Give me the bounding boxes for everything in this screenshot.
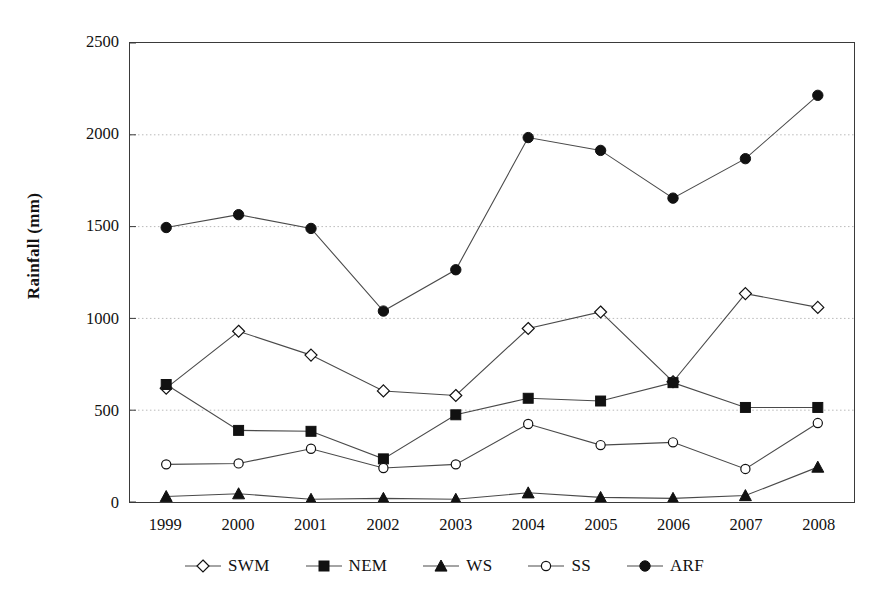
data-point-marker <box>668 378 678 388</box>
data-point-marker <box>813 418 822 427</box>
x-tick-label: 1999 <box>125 515 205 535</box>
series-line <box>166 423 818 469</box>
y-tick-label: 500 <box>45 401 119 421</box>
plot-area <box>129 42 855 503</box>
data-point-marker <box>812 461 824 472</box>
legend-marker <box>197 560 209 572</box>
data-point-marker <box>668 438 677 447</box>
data-point-marker <box>234 425 244 435</box>
data-point-marker <box>306 426 316 436</box>
series-line <box>166 383 818 459</box>
series-line <box>166 95 818 311</box>
legend-item-swm[interactable]: SWM <box>183 556 270 576</box>
series-line <box>166 294 818 396</box>
legend-marker <box>542 561 551 570</box>
chart-legend: SWMNEMWSSSARF <box>0 556 887 576</box>
data-point-marker <box>450 493 462 502</box>
data-point-marker <box>378 454 388 464</box>
data-point-marker <box>813 90 823 100</box>
data-point-marker <box>523 132 533 142</box>
data-point-marker <box>595 145 605 155</box>
data-point-marker <box>306 223 316 233</box>
filled-square-icon <box>304 559 344 573</box>
data-point-marker <box>305 493 317 502</box>
open-diamond-icon <box>183 559 223 573</box>
data-point-marker <box>667 492 679 502</box>
series-ws <box>160 461 824 502</box>
data-point-marker <box>741 464 750 473</box>
data-point-marker <box>522 487 534 498</box>
data-point-marker <box>668 193 678 203</box>
y-tick-label: 2500 <box>45 32 119 52</box>
data-point-marker <box>379 463 388 472</box>
y-tick-label: 1000 <box>45 309 119 329</box>
data-point-marker <box>233 325 245 337</box>
x-tick-label: 2006 <box>634 515 714 535</box>
data-point-marker <box>740 153 750 163</box>
x-tick-label: 2003 <box>416 515 496 535</box>
data-point-marker <box>233 488 245 499</box>
filled-circle-icon <box>625 559 665 573</box>
series-swm <box>160 288 824 402</box>
data-point-marker <box>378 306 388 316</box>
rainfall-line-chart: Rainfall (mm) 05001000150020002500 19992… <box>0 0 887 612</box>
data-point-marker <box>305 349 317 361</box>
x-tick-label: 2007 <box>706 515 786 535</box>
data-point-marker <box>739 490 751 501</box>
data-point-marker <box>451 265 461 275</box>
open-circle-icon <box>526 559 566 573</box>
data-point-marker <box>161 380 171 390</box>
data-point-marker <box>233 209 243 219</box>
data-point-marker <box>596 396 606 406</box>
series-arf <box>161 90 823 316</box>
data-point-marker <box>377 492 389 502</box>
data-point-marker <box>523 393 533 403</box>
data-point-marker <box>451 460 460 469</box>
legend-item-arf[interactable]: ARF <box>625 556 704 576</box>
legend-label: NEM <box>349 556 388 576</box>
data-point-marker <box>234 459 243 468</box>
legend-item-ws[interactable]: WS <box>421 556 492 576</box>
data-point-marker <box>306 444 315 453</box>
x-tick-label: 2005 <box>561 515 641 535</box>
x-tick-label: 2000 <box>198 515 278 535</box>
legend-label: ARF <box>670 556 704 576</box>
legend-label: SS <box>571 556 591 576</box>
data-point-marker <box>596 441 605 450</box>
y-tick-label: 0 <box>45 493 119 513</box>
legend-label: SWM <box>228 556 270 576</box>
data-point-marker <box>162 460 171 469</box>
x-axis-tick-labels: 1999200020012002200320042005200620072008 <box>129 515 855 541</box>
data-point-marker <box>813 402 823 412</box>
data-point-marker <box>161 222 171 232</box>
data-point-marker <box>377 385 389 397</box>
legend-label: WS <box>466 556 492 576</box>
legend-marker <box>640 561 650 571</box>
series-nem <box>161 378 823 464</box>
data-point-marker <box>739 288 751 300</box>
x-tick-label: 2008 <box>779 515 859 535</box>
series-line <box>166 467 818 499</box>
legend-item-ss[interactable]: SS <box>526 556 591 576</box>
data-point-marker <box>740 402 750 412</box>
legend-item-nem[interactable]: NEM <box>304 556 388 576</box>
data-point-marker <box>812 301 824 313</box>
data-series-layer <box>130 43 854 502</box>
x-tick-label: 2004 <box>488 515 568 535</box>
filled-triangle-icon <box>421 559 461 573</box>
legend-marker <box>319 561 329 571</box>
x-tick-label: 2002 <box>343 515 423 535</box>
y-tick-label: 2000 <box>45 124 119 144</box>
data-point-marker <box>524 419 533 428</box>
series-ss <box>162 418 823 473</box>
y-tick-label: 1500 <box>45 216 119 236</box>
x-tick-label: 2001 <box>271 515 351 535</box>
data-point-marker <box>451 410 461 420</box>
